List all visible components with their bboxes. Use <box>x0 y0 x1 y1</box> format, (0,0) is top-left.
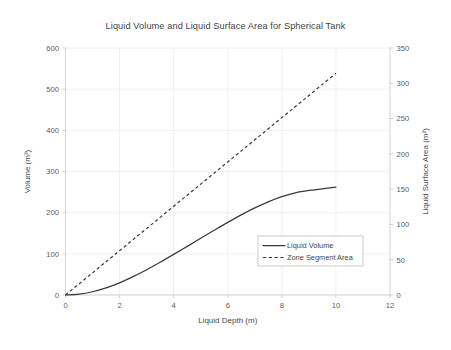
x-axis-tick-label: 0 <box>63 301 67 310</box>
y-axis-tick-label: 500 <box>46 85 59 94</box>
chart-container: Liquid Volume and Liquid Surface Area fo… <box>0 0 451 350</box>
y2-axis-tick-label: 0 <box>397 291 401 300</box>
x-axis-tick-label: 12 <box>386 301 394 310</box>
y-axis-tick-label: 400 <box>46 126 59 135</box>
chart-legend: Liquid VolumeZone Segment Area <box>258 236 363 266</box>
y-axis-tick-label: 100 <box>46 250 59 259</box>
y2-axis-tick-label: 300 <box>397 79 410 88</box>
x-axis-tick-label: 4 <box>172 301 176 310</box>
y2-axis-title: Liquid Surface Area (m²) <box>421 128 430 215</box>
y-axis-tick-labels: 0100200300400500600 <box>46 44 59 300</box>
y2-axis-tick-label: 100 <box>397 220 410 229</box>
chart-plot: 0100200300400500600 05010015020025030035… <box>0 0 451 350</box>
y2-axis-tick-label: 200 <box>397 150 410 159</box>
y2-axis-tick-label: 150 <box>397 185 410 194</box>
legend-label: Zone Segment Area <box>287 253 354 262</box>
y-axis-tick-label: 0 <box>55 291 59 300</box>
y2-axis-tick-labels: 050100150200250300350 <box>397 44 410 300</box>
x-axis-tick-labels: 024681012 <box>63 301 394 310</box>
y-axis-tick-label: 600 <box>46 44 59 53</box>
x-axis-title: Liquid Depth (m) <box>198 316 257 325</box>
y2-axis-tick-label: 50 <box>397 256 405 265</box>
x-axis-tick-label: 2 <box>117 301 121 310</box>
x-axis-tick-label: 10 <box>332 301 340 310</box>
y2-axis-tick-label: 350 <box>397 44 410 53</box>
y2-axis-tick-label: 250 <box>397 114 410 123</box>
x-axis-tick-label: 8 <box>280 301 284 310</box>
y-axis-tick-label: 300 <box>46 167 59 176</box>
x-axis-tick-label: 6 <box>226 301 230 310</box>
y-axis-tick-label: 200 <box>46 208 59 217</box>
y-axis-title: Volume (m³) <box>23 149 32 193</box>
legend-label: Liquid Volume <box>287 241 333 250</box>
